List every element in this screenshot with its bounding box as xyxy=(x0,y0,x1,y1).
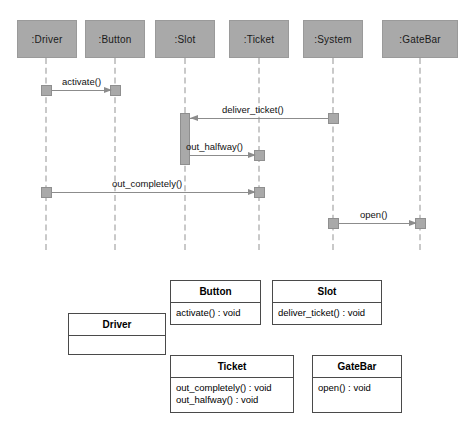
class-box-ticket[interactable]: Ticket out_completely() : void out_halfw… xyxy=(170,355,294,413)
class-operation: out_halfway() : void xyxy=(176,394,288,406)
activation-system-deliver-ticket xyxy=(328,113,339,124)
activation-system-open xyxy=(328,218,339,229)
message-label-activate: activate() xyxy=(62,76,101,87)
class-box-gatebar[interactable]: GateBar open() : void xyxy=(312,355,402,413)
lifeline-head-label: :Ticket xyxy=(244,34,274,45)
message-arrow-out-halfway xyxy=(248,152,256,158)
sequence-diagram-canvas: :Driver :Button :Slot :Ticket :System :G… xyxy=(0,0,474,438)
lifeline-head-label: :GateBar xyxy=(399,34,441,45)
lifeline-head-gatebar[interactable]: :GateBar xyxy=(382,20,458,58)
message-arrow-activate xyxy=(104,87,112,93)
message-arrow-deliver-ticket xyxy=(190,115,198,121)
activation-driver-out-completely xyxy=(41,187,52,198)
lifeline-head-system[interactable]: :System xyxy=(303,20,363,58)
class-name-ticket: Ticket xyxy=(171,356,293,378)
lifeline-head-label: :Driver xyxy=(32,34,63,45)
class-name-button: Button xyxy=(171,281,260,303)
class-name-gatebar: GateBar xyxy=(313,356,401,378)
message-line-open xyxy=(339,223,416,224)
message-line-activate xyxy=(52,90,111,91)
class-operation: deliver_ticket() : void xyxy=(278,307,376,319)
class-name-slot: Slot xyxy=(273,281,381,303)
message-label-open: open() xyxy=(360,209,387,220)
message-line-deliver-ticket xyxy=(190,118,328,119)
message-arrow-out-completely xyxy=(248,189,256,195)
lifeline-head-slot[interactable]: :Slot xyxy=(155,20,215,58)
class-operations-button: activate() : void xyxy=(171,303,260,319)
class-operation: activate() : void xyxy=(176,307,255,319)
message-arrow-open xyxy=(409,220,417,226)
class-box-button[interactable]: Button activate() : void xyxy=(170,280,261,325)
message-label-deliver-ticket: deliver_ticket() xyxy=(222,104,284,115)
lifeline-head-label: :Slot xyxy=(174,34,195,45)
class-operation: open() : void xyxy=(318,382,396,394)
class-operations-ticket: out_completely() : void out_halfway() : … xyxy=(171,378,293,406)
message-line-out-halfway xyxy=(190,155,255,156)
class-name-driver: Driver xyxy=(69,314,165,336)
class-operations-gatebar: open() : void xyxy=(313,378,401,394)
class-operation: out_completely() : void xyxy=(176,382,288,394)
class-operations-driver xyxy=(69,336,165,340)
lifeline-head-ticket[interactable]: :Ticket xyxy=(229,20,289,58)
lifeline-head-label: :System xyxy=(314,34,352,45)
lifeline-head-button[interactable]: :Button xyxy=(85,20,145,58)
class-box-slot[interactable]: Slot deliver_ticket() : void xyxy=(272,280,382,325)
lifeline-head-label: :Button xyxy=(98,34,131,45)
activation-driver-activate xyxy=(41,85,52,96)
activation-slot-bar xyxy=(180,113,190,165)
message-label-out-halfway: out_halfway() xyxy=(186,141,243,152)
lifeline-head-driver[interactable]: :Driver xyxy=(17,20,77,58)
class-box-driver[interactable]: Driver xyxy=(68,313,166,355)
message-line-out-completely xyxy=(52,192,255,193)
class-operations-slot: deliver_ticket() : void xyxy=(273,303,381,319)
message-label-out-completely: out_completely() xyxy=(112,178,182,189)
